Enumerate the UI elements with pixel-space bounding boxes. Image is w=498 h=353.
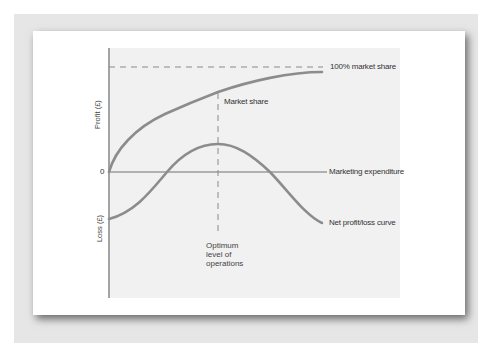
net-profit-curve-label: Net profit/loss curve	[329, 218, 396, 227]
optimum-label: Optimum level of operations	[206, 241, 243, 268]
chart-svg	[0, 0, 498, 353]
optimum-label-line3: operations	[206, 259, 243, 268]
market-share-curve-smooth	[109, 72, 322, 172]
optimum-label-line2: level of	[206, 250, 243, 259]
hundred-percent-label: 100% market share	[330, 62, 396, 71]
market-share-label: Market share	[224, 97, 268, 106]
optimum-label-line1: Optimum	[206, 241, 243, 250]
zero-label: 0	[100, 167, 104, 176]
net-profit-loss-curve	[109, 144, 322, 223]
profit-axis-label: Profit (£)	[93, 100, 102, 129]
loss-axis-label: Loss (£)	[95, 215, 104, 242]
marketing-expenditure-label: Marketing expenditure	[329, 167, 404, 176]
